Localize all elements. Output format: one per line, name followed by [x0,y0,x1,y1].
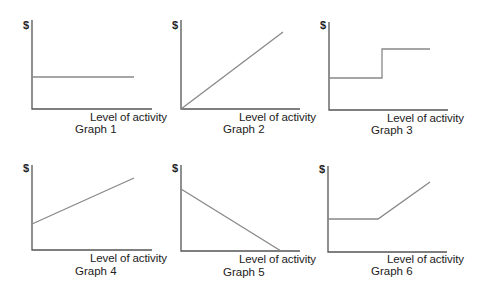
graph-2-x-label: Level of activity [239,112,316,124]
graph-4-title: Graph 4 [75,266,117,278]
graph-3-title: Graph 3 [371,125,413,137]
graph-4-line [32,178,134,224]
graph-2-line [181,32,283,109]
graph-5-y-label: $ [172,163,178,174]
graph-6-axes [328,166,447,252]
graph-6-line [328,182,430,219]
graph-4-x-label: Level of activity [90,253,167,265]
graph-3-x-label: Level of activity [387,113,464,125]
graph-1-axes [32,20,152,109]
graph-6-title: Graph 6 [371,266,413,278]
graph-3-line [329,49,430,78]
graph-5-title: Graph 5 [223,267,265,279]
graph-4-axes [32,165,152,250]
graph-5-x-label: Level of activity [239,254,316,266]
graph-5-axes [181,165,300,251]
graph-2 [181,20,300,109]
graph-3-axes [329,22,448,110]
graph-6 [328,166,447,252]
graph-1-y-label: $ [23,20,29,31]
graph-2-y-label: $ [172,20,178,31]
graph-1 [32,20,152,109]
graph-5-line [181,189,281,251]
graph-3-y-label: $ [320,20,326,31]
graph-1-x-label: Level of activity [90,112,167,124]
graph-6-y-label: $ [319,164,325,175]
cost-behavior-graphs [0,0,491,293]
graph-3 [329,22,448,110]
graph-5 [181,165,300,251]
graph-2-title: Graph 2 [223,124,265,136]
graph-4 [32,165,152,250]
graph-6-x-label: Level of activity [387,254,464,266]
graph-1-title: Graph 1 [75,124,117,136]
graph-4-y-label: $ [23,163,29,174]
